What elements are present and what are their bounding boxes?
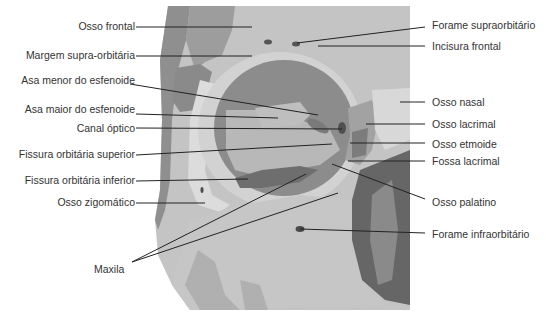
label-forame-infraorbitario: Forame infraorbitário bbox=[432, 228, 529, 240]
label-margem-supra-orbitaria: Margem supra-orbitária bbox=[26, 49, 135, 61]
label-osso-zigomatico: Osso zigomático bbox=[57, 196, 135, 208]
label-osso-lacrimal: Osso lacrimal bbox=[432, 118, 496, 130]
label-asa-maior-esfenoide: Asa maior do esfenoide bbox=[25, 103, 135, 115]
label-osso-etmoide: Osso etmoide bbox=[432, 138, 497, 150]
label-osso-frontal: Osso frontal bbox=[78, 20, 135, 32]
label-fossa-lacrimal: Fossa lacrimal bbox=[432, 155, 500, 167]
label-canal-optico: Canal óptico bbox=[77, 122, 135, 134]
label-maxila: Maxila bbox=[94, 263, 124, 275]
label-forame-supraorbitario: Forame supraorbitário bbox=[432, 19, 535, 31]
skull-illustration bbox=[155, 6, 410, 310]
label-incisura-frontal: Incisura frontal bbox=[432, 40, 501, 52]
label-fissura-orbitaria-superior: Fissura orbitária superior bbox=[19, 148, 135, 160]
label-fissura-orbitaria-inferior: Fissura orbitária inferior bbox=[25, 174, 135, 186]
label-osso-nasal: Osso nasal bbox=[432, 96, 485, 108]
label-osso-palatino: Osso palatino bbox=[432, 196, 496, 208]
label-asa-menor-esfenoide: Asa menor do esfenoide bbox=[21, 74, 135, 86]
